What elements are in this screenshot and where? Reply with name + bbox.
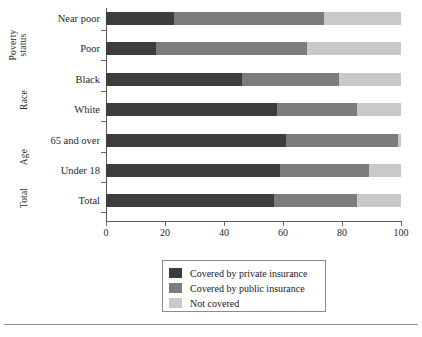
x-axis-tick <box>224 222 225 226</box>
category-label: White <box>74 104 100 116</box>
category-label: Under 18 <box>61 165 100 177</box>
x-axis-tick-label: 80 <box>327 227 357 238</box>
legend-swatch-icon <box>169 268 182 278</box>
bar-segment <box>106 164 280 177</box>
bar-row <box>106 103 401 116</box>
x-axis-tick-label: 20 <box>150 227 180 238</box>
x-axis-tick-label: 40 <box>209 227 239 238</box>
group-label-poverty-line2: status <box>18 15 28 75</box>
group-label-poverty-line1: Poverty <box>8 15 18 75</box>
bar-row <box>106 42 401 55</box>
x-axis-tick <box>165 222 166 226</box>
bar-segment <box>174 12 324 25</box>
bar-segment <box>280 164 369 177</box>
bar-segment <box>286 134 398 147</box>
legend-label: Covered by public insurance <box>190 283 305 294</box>
bar-segment <box>324 12 401 25</box>
category-label: Black <box>76 74 101 86</box>
bar-row <box>106 194 401 207</box>
bar-segment <box>156 42 306 55</box>
x-axis-tick <box>342 222 343 226</box>
bar-row <box>106 12 401 25</box>
bar-segment <box>106 12 174 25</box>
bar-row <box>106 73 401 86</box>
stacked-bar-chart-figure: Poverty status Race Age Total Near poorP… <box>0 0 422 337</box>
bar-segment <box>106 73 242 86</box>
x-axis-tick-label: 60 <box>268 227 298 238</box>
bar-segment <box>106 103 277 116</box>
footer-rule <box>4 324 418 325</box>
legend-label: Covered by private insurance <box>190 268 307 279</box>
bar-segment <box>274 194 357 207</box>
legend-item[interactable]: Covered by private insurance <box>169 266 319 280</box>
bar-row <box>106 164 401 177</box>
x-axis-line <box>106 221 402 222</box>
x-axis-tick <box>401 222 402 226</box>
legend-swatch-icon <box>169 283 182 293</box>
x-axis-tick-label: 0 <box>91 227 121 238</box>
bar-segment <box>398 134 401 147</box>
x-axis-tick-label: 100 <box>386 227 416 238</box>
category-label: 65 and over <box>50 135 100 147</box>
bar-segment <box>339 73 401 86</box>
category-label: Total <box>79 195 100 207</box>
bar-segment <box>307 42 401 55</box>
bar-segment <box>357 194 401 207</box>
legend-item[interactable]: Not covered <box>169 296 319 310</box>
category-axis-labels: Near poorPoorBlackWhite65 and overUnder … <box>28 0 100 225</box>
chart-legend: Covered by private insuranceCovered by p… <box>162 260 326 312</box>
category-label: Poor <box>80 43 100 55</box>
bar-segment <box>106 134 286 147</box>
group-label-poverty-status: Poverty status <box>8 15 28 75</box>
bar-segment <box>369 164 401 177</box>
legend-swatch-icon <box>169 298 182 308</box>
bar-segment <box>357 103 401 116</box>
x-axis-tick <box>283 222 284 226</box>
bar-row <box>106 134 401 147</box>
plot-area <box>106 8 401 221</box>
bar-segment <box>277 103 357 116</box>
x-axis-tick <box>106 222 107 226</box>
bar-segment <box>242 73 339 86</box>
bar-segment <box>106 42 156 55</box>
legend-label: Not covered <box>190 298 239 309</box>
bar-segment <box>106 194 274 207</box>
legend-item[interactable]: Covered by public insurance <box>169 281 319 295</box>
category-label: Near poor <box>58 13 100 25</box>
